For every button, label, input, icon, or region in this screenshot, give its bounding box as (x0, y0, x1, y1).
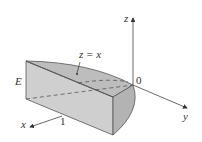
x-tick-label: 1 (60, 115, 66, 127)
origin-label: 0 (136, 74, 142, 86)
z-axis-label: z (123, 12, 129, 24)
region-label: E (14, 75, 22, 87)
y-axis-label: y (182, 110, 188, 122)
x-axis-label: x (20, 118, 26, 130)
surface-pointer-dot (76, 73, 78, 75)
x-axis (30, 116, 62, 127)
y-axis (133, 85, 187, 108)
diagram-canvas: z y x 1 0 E z = x (0, 0, 202, 142)
surface-label: z = x (78, 48, 101, 60)
